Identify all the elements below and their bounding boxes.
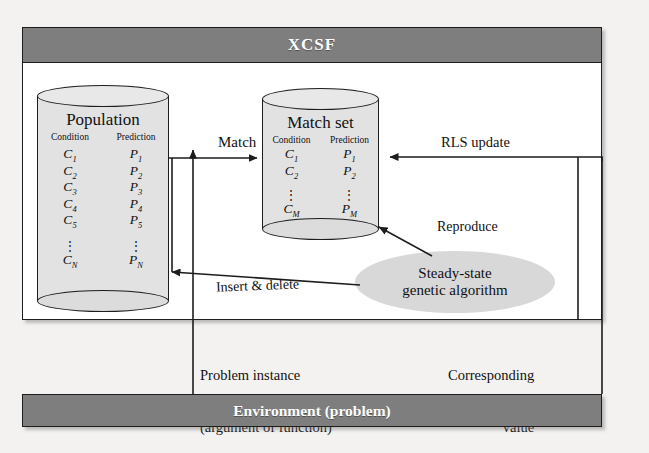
population-title: Population <box>37 110 169 130</box>
label-rls-update: RLS update <box>441 134 510 151</box>
population-row: C4P4 <box>37 197 169 214</box>
match-set-column-headers: Condition Prediction <box>262 135 379 145</box>
population-condition-cell: C4 <box>44 197 96 214</box>
match-set-title: Match set <box>262 113 379 133</box>
population-ellipsis-condition: ⋮ <box>44 243 96 250</box>
population-prediction-cell: P1 <box>110 147 162 164</box>
xcsf-title-bar: XCSF <box>23 28 601 63</box>
label-problem-instance-line1: Problem instance <box>200 367 332 384</box>
xcsf-title-label: XCSF <box>288 35 336 55</box>
match-set-prediction-cell: P1 <box>324 147 376 164</box>
match-set-row: C1P1 <box>262 147 379 164</box>
population-row: C5P5 <box>37 213 169 230</box>
match-set-ellipsis-prediction: ⋮ <box>324 192 376 199</box>
population-cylinder: Population Condition Prediction C1P1 C2P… <box>37 85 169 312</box>
population-col-condition: Condition <box>44 132 96 142</box>
population-row: C3P3 <box>37 180 169 197</box>
diagram-root: XCSF Population Condition Prediction C1P… <box>0 0 649 453</box>
label-problem-instance: Problem instance (argument of function) <box>200 332 332 453</box>
environment-label: Environment (problem) <box>233 402 390 420</box>
population-condition-cell: C3 <box>44 180 96 197</box>
population-prediction-cell-last: PN <box>110 253 162 270</box>
population-ellipsis: ⋮ ⋮ <box>37 243 169 250</box>
match-set-col-prediction: Prediction <box>324 135 376 145</box>
population-row: C1P1 <box>37 147 169 164</box>
population-prediction-cell: P5 <box>110 213 162 230</box>
population-content: Population Condition Prediction C1P1 C2P… <box>37 85 169 312</box>
population-condition-cell: C5 <box>44 213 96 230</box>
population-prediction-cell: P2 <box>110 164 162 181</box>
population-prediction-cell: P3 <box>110 180 162 197</box>
population-ellipsis-prediction: ⋮ <box>110 243 162 250</box>
match-set-row: C2P2 <box>262 164 379 181</box>
label-corresponding-value: Corresponding value <box>448 332 534 453</box>
match-set-condition-cell: C2 <box>266 164 318 181</box>
population-row-last: CNPN <box>37 253 169 270</box>
match-set-condition-cell-last: CM <box>266 202 318 219</box>
population-col-prediction: Prediction <box>110 132 162 142</box>
population-condition-cell: C2 <box>44 164 96 181</box>
ga-line-2: genetic algorithm <box>402 282 507 299</box>
environment-bar: Environment (problem) <box>22 394 602 427</box>
population-condition-cell-last: CN <box>44 253 96 270</box>
population-condition-cell: C1 <box>44 147 96 164</box>
label-corresponding-line1: Corresponding <box>448 367 534 384</box>
population-rows: C1P1 C2P2 C3P3 C4P4 C5P5 ⋮ ⋮ CNPN <box>37 147 169 270</box>
label-reproduce: Reproduce <box>437 219 498 235</box>
match-set-col-condition: Condition <box>266 135 318 145</box>
match-set-rows: C1P1 C2P2 ⋮ ⋮ CMPM <box>262 147 379 219</box>
match-set-condition-cell: C1 <box>266 147 318 164</box>
ga-line-1: Steady-state <box>418 265 491 282</box>
match-set-content: Match set Condition Prediction C1P1 C2P2… <box>262 88 379 240</box>
match-set-cylinder: Match set Condition Prediction C1P1 C2P2… <box>262 88 379 240</box>
match-set-prediction-cell: P2 <box>324 164 376 181</box>
label-match: Match <box>218 134 256 151</box>
match-set-ellipsis-condition: ⋮ <box>266 192 318 199</box>
match-set-ellipsis: ⋮ ⋮ <box>262 192 379 199</box>
population-row: C2P2 <box>37 164 169 181</box>
label-insert-delete: Insert & delete <box>216 276 300 295</box>
match-set-prediction-cell-last: PM <box>324 202 376 219</box>
population-prediction-cell: P4 <box>110 197 162 214</box>
population-column-headers: Condition Prediction <box>37 132 169 142</box>
match-set-row-last: CMPM <box>262 202 379 219</box>
genetic-algorithm-ellipse: Steady-state genetic algorithm <box>355 251 555 313</box>
